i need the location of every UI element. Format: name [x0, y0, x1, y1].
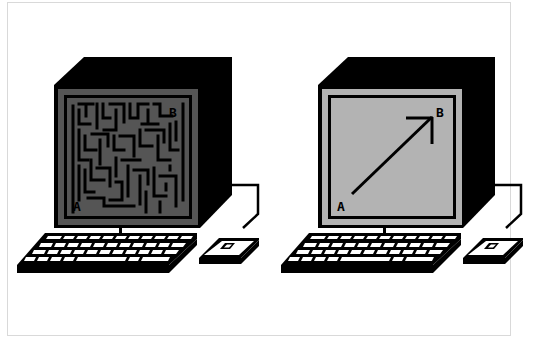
right-mouse: [463, 238, 523, 264]
right-mouse-cable: [495, 185, 521, 228]
maze-start-label: A: [73, 199, 81, 214]
left-mouse: [199, 238, 259, 264]
left-mouse-cable: [232, 185, 258, 228]
left-keyboard: [17, 233, 197, 273]
left-computer: B A: [17, 57, 259, 273]
direct-end-label: B: [436, 105, 444, 120]
right-computer: B A: [281, 57, 523, 273]
illustration-canvas: B A B A: [0, 0, 546, 349]
maze-end-label: B: [169, 105, 177, 120]
right-keyboard: [281, 233, 461, 273]
direct-start-label: A: [337, 199, 345, 214]
